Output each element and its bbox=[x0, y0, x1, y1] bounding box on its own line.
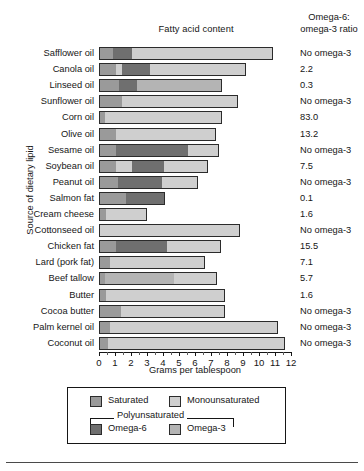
x-tick-major bbox=[131, 352, 132, 356]
x-tick-minor bbox=[235, 352, 236, 355]
stacked-bar bbox=[99, 256, 205, 269]
x-tick-minor bbox=[139, 352, 140, 355]
category-label: Corn oil bbox=[0, 112, 94, 122]
bar-segment-mono bbox=[175, 290, 225, 301]
legend-label-polyunsaturated: Polyunsaturated bbox=[114, 410, 187, 420]
x-tick-minor bbox=[171, 352, 172, 355]
legend-label-omega3: Omega-3 bbox=[187, 423, 226, 433]
x-tick-major bbox=[291, 352, 292, 356]
stacked-bar bbox=[99, 289, 225, 302]
stacked-bar bbox=[99, 240, 221, 253]
x-tick-minor bbox=[187, 352, 188, 355]
stacked-bar bbox=[99, 192, 165, 205]
stacked-bar bbox=[99, 224, 240, 237]
stacked-bar bbox=[99, 321, 278, 334]
bar-segment-o6 bbox=[113, 48, 132, 59]
ratio-value: 7.1 bbox=[300, 257, 364, 267]
category-label: Butter bbox=[0, 290, 94, 300]
bar-segment-mono bbox=[122, 96, 133, 107]
bottom-divider bbox=[6, 462, 358, 463]
stacked-bar bbox=[99, 79, 222, 92]
bar-segment-mono bbox=[106, 209, 133, 220]
ratio-value: 83.0 bbox=[300, 112, 364, 122]
ratio-value: 0.3 bbox=[300, 80, 364, 90]
x-tick-minor bbox=[219, 352, 220, 355]
category-label: Sunflower oil bbox=[0, 96, 94, 106]
bar-segment-sat bbox=[100, 129, 116, 140]
bar-segment-sat bbox=[100, 145, 116, 156]
category-labels-column: Safflower oilCanola oilLinseed oilSunflo… bbox=[0, 45, 94, 352]
bar-segment-o6 bbox=[122, 64, 149, 75]
bar-segment-sat bbox=[100, 161, 116, 172]
ratio-value: 0.1 bbox=[300, 193, 364, 203]
category-label: Beef tallow bbox=[0, 273, 94, 283]
stacked-bar bbox=[99, 337, 285, 350]
x-tick-minor bbox=[107, 352, 108, 355]
x-tick-major bbox=[211, 352, 212, 356]
bar-segment-sat bbox=[100, 306, 121, 317]
ratio-value: No omega-3 bbox=[300, 338, 364, 348]
category-label: Salmon fat bbox=[0, 193, 94, 203]
ratio-value: No omega-3 bbox=[300, 177, 364, 187]
stacked-bar bbox=[99, 272, 217, 285]
bar-segment-sat bbox=[100, 338, 108, 349]
bar-segment-mono bbox=[134, 96, 239, 107]
x-tick-minor bbox=[283, 352, 284, 355]
bar-segment-mono bbox=[167, 241, 220, 252]
legend-swatch-saturated bbox=[90, 396, 102, 407]
bar-segment-mono bbox=[116, 161, 132, 172]
category-label: Canola oil bbox=[0, 64, 94, 74]
legend-label-monounsaturated: Monounsaturated bbox=[187, 395, 259, 405]
chart-title: Fatty acid content bbox=[100, 24, 292, 34]
legend-swatch-monounsaturated bbox=[169, 396, 181, 407]
bar-segment-mono bbox=[142, 257, 205, 268]
bar-segment-mono bbox=[188, 145, 219, 156]
bar-segment-sat bbox=[100, 193, 126, 204]
bar-segment-mono bbox=[162, 177, 198, 188]
x-tick-minor bbox=[267, 352, 268, 355]
category-label: Safflower oil bbox=[0, 48, 94, 58]
stacked-bar bbox=[99, 63, 246, 76]
ratio-column-header: Omega-6: omega-3 ratio bbox=[294, 12, 364, 35]
ratio-value: No omega-3 bbox=[300, 145, 364, 155]
ratio-header-line1: Omega-6: bbox=[308, 12, 349, 22]
ratio-value: No omega-3 bbox=[300, 322, 364, 332]
bar-segment-sat bbox=[100, 48, 113, 59]
category-label: Coconut oil bbox=[0, 338, 94, 348]
ratio-value: 15.5 bbox=[300, 241, 364, 251]
bar-segment-mono bbox=[129, 322, 278, 333]
category-label: Olive oil bbox=[0, 129, 94, 139]
ratio-header-line2: omega-3 ratio bbox=[294, 24, 364, 36]
category-label: Cottonseed oil bbox=[0, 225, 94, 235]
x-tick-major bbox=[147, 352, 148, 356]
bar-segment-o3 bbox=[105, 273, 174, 284]
plot-area: 0123456789101112 bbox=[99, 45, 291, 352]
ratio-value: No omega-3 bbox=[300, 306, 364, 316]
bar-segment-sat bbox=[100, 177, 118, 188]
bar-segment-mono bbox=[132, 48, 273, 59]
x-tick-major bbox=[99, 352, 100, 356]
x-tick-major bbox=[243, 352, 244, 356]
stacked-bar bbox=[99, 305, 225, 318]
bar-segment-o3 bbox=[137, 80, 222, 91]
legend-label-saturated: Saturated bbox=[108, 395, 148, 405]
x-tick-minor bbox=[251, 352, 252, 355]
bar-segment-sat bbox=[100, 257, 110, 268]
bar-segment-o6 bbox=[119, 80, 137, 91]
ratio-value: No omega-3 bbox=[300, 48, 364, 58]
bar-segment-mono bbox=[119, 338, 284, 349]
bar-segment-mono bbox=[134, 209, 147, 220]
bar-segment-mono bbox=[164, 161, 208, 172]
x-tick-minor bbox=[123, 352, 124, 355]
legend-swatch-omega6 bbox=[90, 424, 102, 435]
bar-segment-mono bbox=[106, 290, 175, 301]
stacked-bar bbox=[99, 95, 238, 108]
ratio-value: No omega-3 bbox=[300, 225, 364, 235]
stacked-bar bbox=[99, 47, 273, 60]
bar-segment-mono bbox=[110, 257, 142, 268]
category-label: Lard (pork fat) bbox=[0, 257, 94, 267]
bar-segment-mono bbox=[108, 338, 119, 349]
stacked-bar bbox=[99, 128, 216, 141]
x-axis-title: Grams per tablespoon bbox=[99, 365, 291, 375]
category-label: Cream cheese bbox=[0, 209, 94, 219]
